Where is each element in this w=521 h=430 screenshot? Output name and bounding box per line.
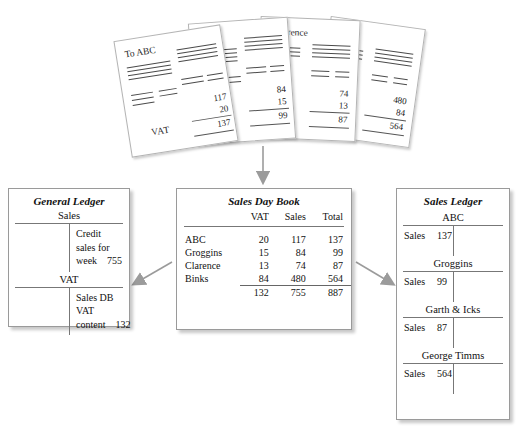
t-debit-side: Sales 99 <box>397 272 453 302</box>
t-entry-amount: 755 <box>107 254 122 268</box>
general-ledger-panel: General Ledger Sales Credit sales for we… <box>8 188 130 327</box>
invoice-net-amount: 74 <box>312 87 348 99</box>
column-header-name <box>177 210 240 225</box>
invoice-vat-label: VAT <box>150 125 170 138</box>
t-entry-amount: 99 <box>437 275 447 288</box>
t-account-body: Credit sales for week 755 <box>9 224 129 272</box>
table-row: Clarence 13 74 87 <box>177 259 351 272</box>
gl-account-name: VAT <box>9 274 129 287</box>
table-row: Groggins 15 84 99 <box>177 246 351 259</box>
t-credit-side <box>453 318 509 348</box>
invoice-vat-amount: 15 <box>250 96 287 108</box>
t-account-body: Sales 564 <box>397 364 509 394</box>
t-entry-label: Sales <box>404 367 425 380</box>
gl-account-vat: VAT Sales DB VAT content 132 <box>9 274 129 336</box>
row-vat: 15 <box>240 246 273 259</box>
invoice-stack: To ABC 117 20 VAT 137 oggins <box>118 8 398 156</box>
sales-ledger-title: Sales Ledger <box>397 189 509 210</box>
row-total: 99 <box>310 246 351 259</box>
table-row: ABC 20 117 137 <box>177 231 351 246</box>
row-sales: 84 <box>273 246 310 259</box>
general-ledger-title: General Ledger <box>9 189 129 210</box>
t-account-body: Sales 137 <box>397 226 509 256</box>
t-entry-label: content <box>76 318 105 332</box>
row-total: 87 <box>310 259 351 272</box>
sl-account-groggins: Groggins Sales 99 <box>397 258 509 302</box>
totals-sales: 755 <box>273 286 310 300</box>
t-entry-label: VAT <box>76 304 94 318</box>
t-entry: Sales 137 <box>404 229 448 242</box>
totals-vat: 132 <box>240 286 273 300</box>
row-name: Binks <box>177 272 240 286</box>
row-sales: 74 <box>273 259 310 272</box>
t-entry-label: week <box>76 254 97 268</box>
table-header-row: VAT Sales Total <box>177 210 351 225</box>
table-row: Binks 84 480 564 <box>177 272 351 286</box>
t-debit-side: Sales 87 <box>397 318 453 348</box>
t-entry: content 132 <box>76 318 124 332</box>
row-sales: 117 <box>273 231 310 246</box>
t-entry-amount: 132 <box>115 318 130 332</box>
sl-account-name: ABC <box>397 212 509 225</box>
row-sales: 480 <box>273 272 310 286</box>
t-entry-amount: 137 <box>437 229 452 242</box>
arrow-daybook-to-sales-ledger <box>356 262 393 284</box>
column-header-vat: VAT <box>240 210 273 225</box>
sl-account-name: Garth & Icks <box>397 304 509 317</box>
t-entry-label: Credit <box>76 227 101 241</box>
totals-total: 887 <box>310 286 351 300</box>
row-vat: 13 <box>240 259 273 272</box>
t-entry: Sales 564 <box>404 367 448 380</box>
cropped-text-fragment <box>6 0 226 4</box>
t-entry-label: Sales <box>404 229 425 242</box>
table-totals-row: 132 755 887 <box>177 286 351 300</box>
t-debit-side <box>9 224 69 272</box>
row-name: Clarence <box>177 259 240 272</box>
t-account-body: Sales 99 <box>397 272 509 302</box>
t-credit-side <box>453 226 509 256</box>
t-debit-side: Sales 137 <box>397 226 453 256</box>
invoice-total-amount: 87 <box>311 113 347 125</box>
t-entry: Sales 99 <box>404 275 448 288</box>
row-name: Groggins <box>177 246 240 259</box>
t-entry: Credit <box>76 227 124 241</box>
t-credit-side: Sales DB VAT content 132 <box>69 288 129 336</box>
t-entry: week 755 <box>76 254 124 268</box>
gl-account-sales: Sales Credit sales for week 755 <box>9 210 129 272</box>
t-entry: VAT <box>76 304 124 318</box>
sales-day-book-panel: Sales Day Book VAT Sales Total ABC 20 11… <box>176 188 352 330</box>
t-entry-amount: 87 <box>437 321 447 334</box>
t-entry-label: Sales <box>404 275 425 288</box>
t-entry-amount: 564 <box>437 367 452 380</box>
invoice-to-abc: To ABC 117 20 VAT 137 <box>113 24 238 157</box>
t-entry: sales for <box>76 241 124 255</box>
t-entry: Sales DB <box>76 291 124 305</box>
sl-account-abc: ABC Sales 137 <box>397 212 509 256</box>
t-entry-label: sales for <box>76 241 110 255</box>
sales-day-book-title: Sales Day Book <box>177 189 351 210</box>
t-entry: Sales 87 <box>404 321 448 334</box>
t-credit-side: Credit sales for week 755 <box>69 224 129 272</box>
column-header-sales: Sales <box>273 210 310 225</box>
invoice-total-amount: 99 <box>251 110 288 122</box>
gl-account-name: Sales <box>9 210 129 223</box>
sl-account-name: George Timms <box>397 350 509 363</box>
invoice-net-amount: 84 <box>249 84 286 96</box>
t-entry-label: Sales DB <box>76 291 114 305</box>
t-entry-label: Sales <box>404 321 425 334</box>
t-credit-side <box>453 364 509 394</box>
row-vat: 20 <box>240 231 273 246</box>
t-debit-side <box>9 288 69 336</box>
sl-account-george-timms: George Timms Sales 564 <box>397 350 509 394</box>
invoice-vat-amount: 13 <box>312 99 348 111</box>
sl-account-garth-icks: Garth & Icks Sales 87 <box>397 304 509 348</box>
row-name: ABC <box>177 231 240 246</box>
t-account-body: Sales DB VAT content 132 <box>9 288 129 336</box>
column-header-total: Total <box>310 210 351 225</box>
sales-ledger-panel: Sales Ledger ABC Sales 137 Groggins Sale… <box>396 188 510 420</box>
arrow-daybook-to-general-ledger <box>134 262 172 284</box>
sl-account-name: Groggins <box>397 258 509 271</box>
totals-name <box>177 286 240 300</box>
t-debit-side: Sales 564 <box>397 364 453 394</box>
sales-day-book-table: VAT Sales Total ABC 20 117 137 Groggins … <box>177 210 351 299</box>
